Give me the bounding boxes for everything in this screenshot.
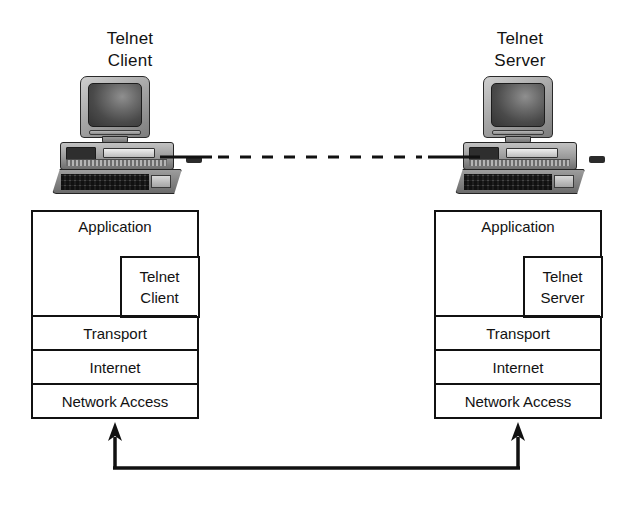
case-vents-icon	[66, 159, 167, 166]
monitor-screen	[88, 83, 142, 127]
host-label-server: Telnet Server	[440, 28, 600, 72]
monitor-screen	[491, 83, 545, 127]
application-sublayer-telnet-server[interactable]: Telnet Server	[523, 256, 603, 318]
stack-layer-transport[interactable]: Transport	[436, 315, 600, 349]
computer-case-icon	[60, 142, 174, 170]
monitor-icon	[483, 76, 553, 138]
stack-layer-label: Network Access	[62, 393, 169, 410]
computer-icon-server	[455, 76, 585, 194]
monitor-chin	[492, 130, 544, 135]
stack-layer-label: Internet	[493, 359, 544, 376]
stack-layer-transport[interactable]: Transport	[33, 315, 197, 349]
stack-layer-label: Transport	[486, 325, 550, 342]
keyboard-numpad	[151, 175, 171, 188]
keyboard-keys	[464, 174, 552, 190]
protocol-stack-server: Application Telnet Server Transport Inte…	[434, 210, 602, 419]
stack-layer-label: Application	[78, 218, 151, 235]
stack-layer-label: Network Access	[465, 393, 572, 410]
monitor-icon	[80, 76, 150, 138]
stack-layer-label: Application	[481, 218, 554, 235]
computer-icon-client	[52, 76, 182, 194]
logical-connection-line	[160, 150, 480, 164]
stack-layer-network-access[interactable]: Network Access	[33, 383, 197, 417]
stack-layer-internet[interactable]: Internet	[436, 349, 600, 383]
keyboard-icon	[52, 169, 182, 194]
case-vents-icon	[469, 159, 570, 166]
monitor-chin	[89, 130, 141, 135]
keyboard-icon	[455, 169, 585, 194]
floppy-slot-icon	[506, 148, 558, 158]
keyboard-numpad	[554, 175, 574, 188]
protocol-stack-client: Application Telnet Client Transport Inte…	[31, 210, 199, 419]
floppy-eject-button-icon	[589, 156, 605, 163]
stack-layer-application[interactable]: Application Telnet Server	[436, 212, 600, 315]
stack-layer-network-access[interactable]: Network Access	[436, 383, 600, 417]
floppy-slot-icon	[103, 148, 155, 158]
stack-layer-label: Transport	[83, 325, 147, 342]
keyboard-keys	[61, 174, 149, 190]
stack-layer-label: Internet	[90, 359, 141, 376]
application-sublayer-telnet-client[interactable]: Telnet Client	[120, 256, 200, 318]
stack-layer-internet[interactable]: Internet	[33, 349, 197, 383]
application-sublayer-label: Telnet Server	[540, 266, 584, 308]
host-label-client: Telnet Client	[50, 28, 210, 72]
physical-path-connector	[0, 415, 632, 485]
application-sublayer-label: Telnet Client	[139, 266, 179, 308]
diagram-canvas: Telnet Client Telnet Server	[0, 0, 632, 505]
computer-case-icon	[463, 142, 577, 170]
stack-layer-application[interactable]: Application Telnet Client	[33, 212, 197, 315]
